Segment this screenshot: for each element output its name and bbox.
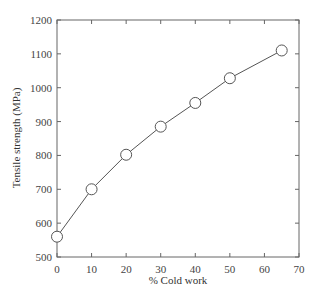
x-tick-label: 0 xyxy=(54,263,60,275)
x-tick-label: 60 xyxy=(259,263,271,275)
data-point-marker xyxy=(52,231,63,242)
data-point-marker xyxy=(121,149,132,160)
y-tick-label: 1200 xyxy=(30,14,53,26)
y-tick-label: 700 xyxy=(36,183,53,195)
x-tick-label: 70 xyxy=(294,263,306,275)
x-axis-label: % Cold work xyxy=(149,274,208,286)
data-series xyxy=(52,45,288,242)
data-point-marker xyxy=(224,73,235,84)
x-tick-label: 50 xyxy=(224,263,236,275)
data-point-marker xyxy=(190,97,201,108)
y-tick-label: 600 xyxy=(36,217,53,229)
data-point-marker xyxy=(276,45,287,56)
line-chart: 0102030405060705006007008009001000110012… xyxy=(0,0,320,300)
y-tick-label: 800 xyxy=(36,149,53,161)
axes: 0102030405060705006007008009001000110012… xyxy=(30,14,305,275)
y-tick-label: 1000 xyxy=(30,82,53,94)
series-line xyxy=(57,51,282,237)
y-axis-label: Tensile strength (MPa) xyxy=(10,87,23,188)
x-tick-label: 10 xyxy=(86,263,98,275)
plot-frame xyxy=(57,20,299,257)
y-tick-label: 500 xyxy=(36,251,53,263)
y-tick-label: 1100 xyxy=(30,48,52,60)
data-point-marker xyxy=(86,184,97,195)
data-point-marker xyxy=(155,121,166,132)
x-tick-label: 20 xyxy=(121,263,133,275)
y-tick-label: 900 xyxy=(36,116,53,128)
